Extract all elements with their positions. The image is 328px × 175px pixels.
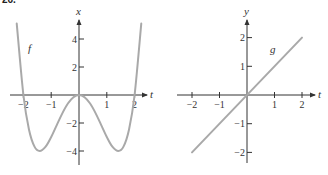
y-tick-label: −2 bbox=[66, 118, 77, 129]
figure: tx−2−112−4−224f ty−2−112−2−112g bbox=[0, 0, 328, 175]
y-tick-label: 1 bbox=[240, 61, 245, 72]
chart-f: tx−2−112−4−224f bbox=[10, 5, 154, 165]
y-tick-label: −4 bbox=[66, 146, 77, 157]
x-axis-label: t bbox=[150, 88, 154, 100]
y-tick-label: 2 bbox=[240, 32, 245, 43]
y-tick-label: 4 bbox=[72, 34, 77, 45]
function-label: g bbox=[270, 43, 276, 55]
x-tick-label: −1 bbox=[214, 99, 225, 110]
y-axis-label: x bbox=[75, 5, 81, 17]
x-tick-label: 1 bbox=[104, 99, 109, 110]
y-axis-label: y bbox=[243, 5, 249, 17]
y-tick-label: −2 bbox=[234, 147, 245, 158]
x-tick-label: −2 bbox=[187, 99, 198, 110]
x-tick-label: −1 bbox=[46, 99, 57, 110]
x-tick-label: 2 bbox=[300, 99, 305, 110]
y-tick-label: −1 bbox=[234, 118, 245, 129]
function-label: f bbox=[28, 42, 33, 54]
x-axis-label: t bbox=[318, 88, 322, 100]
chart-g: ty−2−112−2−112g bbox=[177, 5, 322, 163]
y-tick-label: 2 bbox=[72, 62, 77, 73]
x-tick-label: 1 bbox=[272, 99, 277, 110]
